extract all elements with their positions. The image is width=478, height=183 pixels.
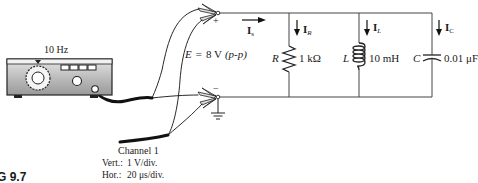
inductor-current-label: IL	[373, 21, 381, 35]
capacitor-branch	[423, 13, 441, 97]
amplitude-knob-icon[interactable]	[73, 77, 82, 86]
inductor-branch	[353, 13, 365, 97]
scope-hor-label: Hor.:	[102, 170, 121, 180]
inductor-icon	[353, 43, 365, 70]
source-voltage-label: E=8 V(p-p)	[184, 48, 247, 61]
scope-channel-label: Channel 1	[118, 145, 159, 156]
output-jack-icon	[92, 86, 99, 93]
scope-hor-value: 20 μs/div.	[127, 170, 164, 180]
ground-icon	[211, 99, 225, 119]
resistor-branch	[283, 13, 295, 97]
scope-negative-lead	[168, 104, 202, 135]
figure-label: G 9.7	[0, 170, 27, 183]
resistor-symbol-label: R	[271, 52, 279, 64]
circuit-diagram: Is IR IL IC R 1 kΩ L 10 mH C 0.01 μF E=8…	[0, 0, 478, 183]
function-generator-icon[interactable]	[7, 59, 112, 98]
capacitor-current-label: IC	[445, 21, 454, 35]
minus-terminal-label: −	[213, 83, 219, 94]
source-negative-lead	[152, 95, 198, 98]
inductor-value-label: 10 mH	[369, 52, 399, 64]
inductor-symbol-label: L	[342, 52, 349, 64]
source-current-label: Is	[247, 24, 254, 38]
oscilloscope-cable	[120, 135, 168, 142]
source-positive-lead	[152, 9, 199, 98]
resistor-current-arrow-icon	[294, 20, 300, 36]
capacitor-value-label: 0.01 μF	[444, 52, 478, 64]
capacitor-current-arrow-icon	[436, 20, 442, 36]
inductor-current-arrow-icon	[364, 20, 370, 36]
top-terminal-node	[216, 11, 220, 15]
resistor-value-label: 1 kΩ	[299, 52, 321, 64]
scope-vert-label: Vert.:	[102, 158, 123, 168]
bottom-terminal-node	[216, 95, 220, 99]
scope-vert-value: 1 V/div.	[127, 158, 157, 168]
resistor-icon	[283, 46, 295, 72]
capacitor-symbol-label: C	[413, 52, 421, 64]
source-current-arrow-icon	[242, 17, 266, 23]
generator-frequency-label: 10 Hz	[44, 44, 69, 55]
range-buttons-icon[interactable]	[61, 65, 96, 70]
resistor-current-label: IR	[303, 23, 312, 37]
scope-positive-lead	[168, 20, 202, 135]
